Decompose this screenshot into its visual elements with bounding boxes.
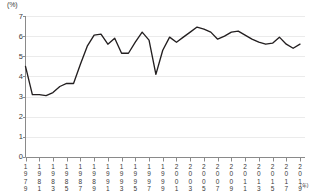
x-tick-digit: 7 — [282, 185, 291, 192]
x-tick-label: 2015 — [268, 163, 277, 193]
y-tick-label-0: 0 — [11, 153, 23, 161]
x-tick-digit: 8 — [76, 178, 85, 185]
x-tick-digit: 9 — [35, 170, 44, 177]
x-tick-digit: 9 — [103, 178, 112, 185]
x-tick-digit: 0 — [199, 178, 208, 185]
y-tick-label-6: 6 — [11, 33, 23, 41]
y-tick-label-7: 7 — [11, 13, 23, 21]
x-tick-digit: 5 — [131, 185, 140, 192]
x-tick-digit: 0 — [227, 170, 236, 177]
x-tick-digit: 9 — [117, 178, 126, 185]
x-tick-digit: 0 — [199, 170, 208, 177]
x-tick-digit: 9 — [158, 185, 167, 192]
x-tick-label: 2007 — [213, 163, 222, 193]
x-tick-digit: 3 — [48, 185, 57, 192]
x-tick-digit: 0 — [186, 170, 195, 177]
x-tick-digit: 0 — [172, 170, 181, 177]
x-tick-digit: 3 — [117, 185, 126, 192]
x-tick-digit: 9 — [62, 170, 71, 177]
x-tick-digit: 1 — [103, 185, 112, 192]
x-tick-label: 1983 — [48, 163, 57, 193]
plot-area — [0, 0, 311, 196]
x-tick-digit: 1 — [62, 163, 71, 170]
x-tick-digit: 7 — [145, 185, 154, 192]
x-tick-digit: 1 — [48, 163, 57, 170]
x-tick-digit: 9 — [21, 170, 30, 177]
x-tick-digit: 3 — [254, 185, 263, 192]
x-tick-digit: 1 — [117, 163, 126, 170]
gridlines — [23, 17, 305, 158]
x-tick-digit: 2 — [282, 163, 291, 170]
x-tick-digit: 1 — [131, 163, 140, 170]
x-tick-digit: 0 — [227, 178, 236, 185]
x-tick-digit: 9 — [21, 185, 30, 192]
x-tick-digit: 8 — [35, 178, 44, 185]
x-tick-digit: 5 — [62, 185, 71, 192]
y-tick-label-1: 1 — [11, 133, 23, 141]
x-tick-label: 2001 — [172, 163, 181, 193]
x-tick-label: 2019 — [296, 163, 305, 193]
x-tick-digit: 1 — [145, 163, 154, 170]
x-tick-digit: 2 — [296, 163, 305, 170]
x-tick-digit: 1 — [268, 178, 277, 185]
x-tick-digit: 9 — [48, 170, 57, 177]
x-tick-digit: 2 — [241, 163, 250, 170]
x-tick-label: 1981 — [35, 163, 44, 193]
x-tick-digit: 2 — [199, 163, 208, 170]
y-tick-label-5: 5 — [11, 53, 23, 61]
x-tick-label: 2003 — [186, 163, 195, 193]
x-tick-label: 1993 — [117, 163, 126, 193]
x-tick-digit: 2 — [213, 163, 222, 170]
x-tick-digit: 0 — [213, 170, 222, 177]
x-tick-digit: 7 — [76, 185, 85, 192]
x-tick-digit: 1 — [90, 163, 99, 170]
x-tick-digit: 9 — [131, 170, 140, 177]
x-tick-digit: 2 — [186, 163, 195, 170]
data-series-line — [26, 27, 301, 95]
x-tick-digit: 9 — [227, 185, 236, 192]
y-tick-label-2: 2 — [11, 113, 23, 121]
x-tick-digit: 1 — [172, 185, 181, 192]
y-tick-label-4: 4 — [11, 73, 23, 81]
x-tick-digit: 9 — [90, 170, 99, 177]
y-tick-label-3: 3 — [11, 93, 23, 101]
x-tick-digit: 1 — [103, 163, 112, 170]
x-tick-label: 1997 — [145, 163, 154, 193]
x-tick-digit: 1 — [21, 163, 30, 170]
x-tick-digit: 8 — [48, 178, 57, 185]
x-tick-digit: 1 — [241, 178, 250, 185]
x-tick-digit: 5 — [199, 185, 208, 192]
x-tick-digit: 2 — [227, 163, 236, 170]
x-tick-digit: 0 — [241, 170, 250, 177]
x-tick-digit: 0 — [254, 170, 263, 177]
x-tick-label: 1979 — [21, 163, 30, 193]
y-axis-unit-label: (%) — [7, 1, 17, 9]
x-tick-digit: 9 — [90, 185, 99, 192]
x-tick-digit: 0 — [213, 178, 222, 185]
x-tick-digit: 2 — [172, 163, 181, 170]
x-tick-label: 2011 — [241, 163, 250, 193]
x-tick-digit: 5 — [268, 185, 277, 192]
x-tick-label: 1991 — [103, 163, 112, 193]
x-tick-digit: 0 — [268, 170, 277, 177]
x-tick-digit: 2 — [268, 163, 277, 170]
x-tick-digit: 1 — [35, 163, 44, 170]
x-tick-label: 1999 — [158, 163, 167, 193]
x-tick-digit: 9 — [145, 178, 154, 185]
x-tick-digit: 2 — [254, 163, 263, 170]
x-tick-digit: 0 — [282, 170, 291, 177]
x-tick-digit: 1 — [254, 178, 263, 185]
x-tick-digit: 8 — [90, 178, 99, 185]
x-tick-digit: 9 — [103, 170, 112, 177]
x-tick-digit: 0 — [296, 170, 305, 177]
x-tick-digit: 0 — [186, 178, 195, 185]
x-tick-digit: 8 — [62, 178, 71, 185]
x-axis-suffix-label: (年) — [300, 182, 308, 188]
x-tick-digit: 7 — [213, 185, 222, 192]
x-axis-ticks — [27, 158, 301, 162]
line-chart: (%) 7 6 5 4 3 2 1 0 19791981198319851987… — [0, 0, 311, 196]
x-tick-digit: 7 — [21, 178, 30, 185]
x-tick-label: 1995 — [131, 163, 140, 193]
x-tick-digit: 1 — [35, 185, 44, 192]
x-tick-label: 1987 — [76, 163, 85, 193]
